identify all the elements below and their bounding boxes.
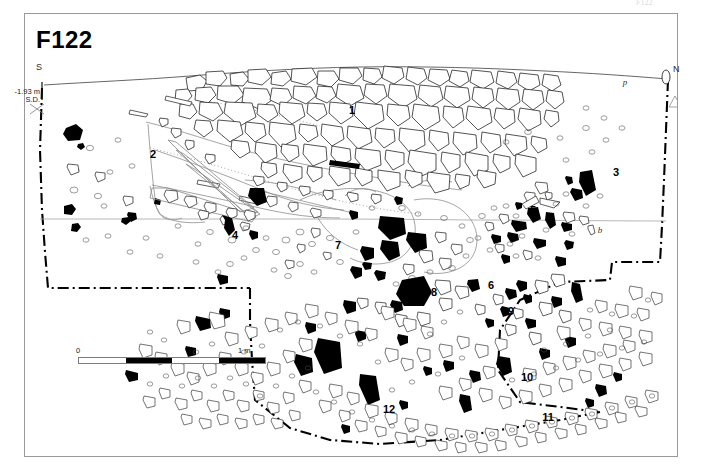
context-label-12: 12	[383, 403, 395, 415]
south-label: S	[36, 62, 42, 72]
sub-label-b: b	[598, 225, 603, 235]
context-label-1: 1	[349, 104, 355, 116]
north-marker	[662, 70, 670, 84]
dark-finds-area-7	[349, 196, 427, 281]
context-label-10: 10	[521, 371, 533, 383]
context-label-6: 6	[488, 279, 494, 291]
pebbles-left-outside	[73, 138, 199, 264]
context-label-7: 7	[335, 239, 341, 251]
scale-segment	[79, 358, 126, 363]
site-plan-drawing	[0, 0, 703, 473]
scale-segment	[126, 358, 173, 363]
scale-segment	[219, 358, 266, 363]
scale-segment	[172, 358, 219, 363]
figure-page: F122	[0, 0, 703, 473]
context-label-11: 11	[542, 411, 554, 423]
sub-label-p: p	[623, 77, 628, 87]
datum-reference: S.D.	[0, 96, 40, 105]
cobble-spread-bottom	[139, 286, 662, 453]
scale-end-label: 1 m	[238, 346, 251, 355]
context-label-8: 8	[431, 286, 437, 298]
north-arrow-icon	[669, 96, 681, 107]
page-title: F122	[36, 26, 93, 54]
context-label-2: 2	[150, 148, 156, 160]
north-label: N	[673, 64, 680, 74]
stone-outlines-left	[67, 164, 133, 206]
context-label-5: 5	[530, 204, 536, 216]
context-label-9: 9	[508, 305, 514, 317]
context-label-3: 3	[613, 166, 619, 178]
scale-bar	[78, 357, 266, 364]
dark-finds-area-3	[565, 170, 596, 201]
context-label-4: 4	[232, 229, 238, 241]
dark-finds-left-lower	[127, 212, 228, 285]
stone-cluster-area-1	[159, 66, 564, 204]
scale-start-label: 0	[76, 346, 80, 355]
